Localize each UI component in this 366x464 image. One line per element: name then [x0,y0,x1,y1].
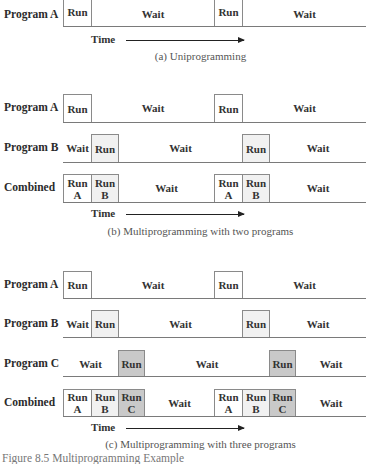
time-arrow-icon [126,214,244,215]
run-label: Run [218,6,238,18]
combined-run-c: RunC [269,389,296,416]
row-label-program-a: Program A [4,8,58,20]
combined-run-b: RunB [91,389,119,416]
combined-run-b: RunB [91,174,119,202]
wait-label: Wait [243,8,366,20]
wait-label: Wait [63,358,118,370]
time-label: Time [91,421,115,433]
wait-label: Wait [270,182,366,194]
time-label: Time [91,207,115,219]
run-label: Run [121,358,141,370]
wait-label: Wait [243,102,366,114]
run-box-a: Run [63,0,92,26]
caption-a: (a) Uniprogramming [63,50,338,62]
time-label: Time [91,33,115,45]
run-label: Run [218,103,238,115]
caption-c: (c) Multiprogramming with three programs [63,438,338,450]
row-label-program-b: Program B [4,141,58,153]
run-box-a: Run [214,271,243,298]
wait-label: Wait [63,142,92,154]
program-letter: C [128,403,136,415]
wait-label: Wait [63,318,92,330]
program-letter: B [252,403,259,415]
program-letter: C [279,403,287,415]
run-label: Run [218,177,238,189]
run-box-b: Run [91,310,119,337]
program-letter: A [74,189,82,201]
run-box-b: Run [242,310,270,337]
time-arrow-icon [126,40,244,41]
run-label: Run [67,177,87,189]
program-letter: B [101,189,108,201]
row-label-program-c: Program C [4,357,59,369]
run-label: Run [246,318,266,330]
run-box-c: Run [118,350,145,376]
run-label: Run [272,358,292,370]
program-letter: A [74,403,82,415]
wait-label: Wait [243,279,366,291]
run-label: Run [272,391,292,403]
wait-label: Wait [92,8,214,20]
run-box-b: Run [242,134,270,162]
run-label: Run [246,177,266,189]
timeline-baseline [63,162,366,163]
run-box-c: Run [269,350,296,376]
run-label: Run [121,391,141,403]
wait-label: Wait [145,397,214,409]
wait-label: Wait [270,142,366,154]
run-box-b: Run [91,134,119,162]
run-label: Run [67,103,87,115]
run-label: Run [95,318,115,330]
program-letter: A [225,403,233,415]
caption-b: (b) Multiprogramming with two programs [63,225,338,237]
wait-label: Wait [296,397,366,409]
combined-run-a: RunA [214,174,243,202]
timeline-baseline [63,337,366,338]
combined-run-b: RunB [242,389,270,416]
timeline-baseline [63,376,366,377]
timeline-baseline [63,26,366,27]
timeline-baseline [63,122,366,123]
timeline-baseline [63,416,366,417]
run-label: Run [218,391,238,403]
run-label: Run [218,279,238,291]
run-label: Run [95,177,115,189]
run-label: Run [67,391,87,403]
run-box-a: Run [214,94,243,122]
run-label: Run [246,143,266,155]
wait-label: Wait [92,279,214,291]
run-box-a: Run [63,271,92,298]
wait-label: Wait [270,318,366,330]
timeline-baseline [63,298,366,299]
combined-run-a: RunA [63,389,92,416]
wait-label: Wait [92,102,214,114]
figure-caption: Figure 8.5 Multiprogramming Example [2,452,184,464]
run-label: Run [95,391,115,403]
row-label-program-b: Program B [4,317,58,329]
run-label: Run [95,143,115,155]
program-letter: A [225,189,233,201]
combined-run-a: RunA [214,389,243,416]
row-label-program-a: Program A [4,101,58,113]
combined-run-a: RunA [63,174,92,202]
run-label: Run [246,391,266,403]
wait-label: Wait [119,182,214,194]
program-letter: B [252,189,259,201]
wait-label: Wait [119,318,242,330]
wait-label: Wait [296,358,366,370]
run-label: Run [67,279,87,291]
time-arrow-icon [126,428,244,429]
run-box-a: Run [214,0,243,26]
program-letter: B [101,403,108,415]
row-label-combined: Combined [4,181,55,193]
run-label: Run [67,6,87,18]
run-box-a: Run [63,94,92,122]
combined-run-c: RunC [118,389,145,416]
wait-label: Wait [145,358,269,370]
row-label-program-a: Program A [4,278,58,290]
row-label-combined: Combined [4,396,55,408]
wait-label: Wait [119,142,242,154]
timeline-baseline [63,202,366,203]
combined-run-b: RunB [242,174,270,202]
